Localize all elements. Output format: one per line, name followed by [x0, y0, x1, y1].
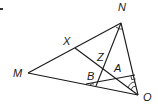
stray-mark [0, 8, 3, 10]
segment-mn [28, 23, 121, 73]
label-b: B [87, 70, 94, 82]
label-m: M [13, 67, 23, 79]
segment-mo [28, 73, 138, 95]
label-n: N [118, 1, 126, 13]
label-o: O [143, 91, 152, 103]
label-x: X [62, 35, 71, 47]
angle-arc-b [90, 84, 94, 85]
geometry-diagram: N M O X Z B A [0, 0, 158, 105]
angle-arc-o-inner [131, 86, 136, 90]
label-a: A [113, 62, 121, 74]
label-z: Z [96, 51, 105, 63]
angle-arc-o-outer [128, 82, 135, 88]
